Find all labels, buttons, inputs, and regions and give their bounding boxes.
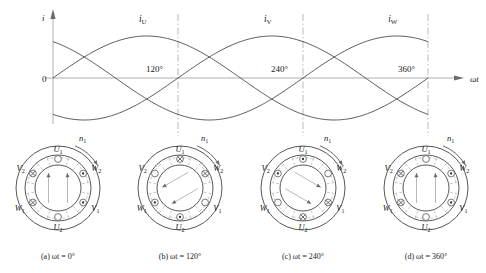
coil-U2: U2 <box>298 214 307 233</box>
slot-tick <box>159 163 164 169</box>
terminal-label-V2: V2 <box>385 163 393 174</box>
field-arrow-head <box>47 173 51 177</box>
slot-tick <box>318 206 323 212</box>
current-out-of-page-icon <box>450 201 452 203</box>
slot-tick <box>405 206 410 212</box>
terminal-label-W1: W1 <box>383 203 393 214</box>
terminal-label-W2: W2 <box>91 163 101 174</box>
terminal-label-U1: U1 <box>53 144 62 155</box>
phase-label-iW: iW <box>388 14 398 25</box>
current-out-of-page-icon <box>302 158 304 160</box>
current-waveform-chart: iωt0120°240°360°iUiViW <box>0 0 486 140</box>
terminal-label-U1: U1 <box>175 144 184 155</box>
current-out-of-page-icon <box>277 172 279 174</box>
waveform-svg: iωt0120°240°360°iUiViW <box>0 0 486 140</box>
slot-tick <box>204 192 212 193</box>
coil-marker-U1 <box>423 156 430 163</box>
coil-marker-V2 <box>151 170 158 177</box>
slot-tick <box>148 192 156 193</box>
coil-U2: U2 <box>421 214 430 233</box>
terminal-label-V2: V2 <box>262 163 270 174</box>
field-arrow-line <box>295 172 321 187</box>
terminal-label-W1: W1 <box>15 203 25 214</box>
motor-c: U1W2V1U2W1V2n1 <box>260 133 347 233</box>
coil-marker-V1 <box>202 199 209 206</box>
current-out-of-page-icon <box>82 201 84 203</box>
phase-label-iV: iV <box>264 14 272 25</box>
terminal-label-V2: V2 <box>17 163 25 174</box>
slot-tick <box>271 182 279 183</box>
field-arrow-head <box>434 173 438 177</box>
motor-d: U1W2V1U2W1V2n1 <box>383 133 470 233</box>
terminal-label-U2: U2 <box>421 222 430 233</box>
coil-marker-W1 <box>274 199 281 206</box>
slot-tick <box>82 182 90 183</box>
terminal-label-W1: W1 <box>260 203 270 214</box>
terminal-label-V1: V1 <box>213 203 221 214</box>
phase-label-iU: iU <box>139 14 147 25</box>
terminal-label-U1: U1 <box>298 144 307 155</box>
coil-marker-U2 <box>55 214 62 221</box>
rotor-circle <box>157 165 203 211</box>
three-phase-rotating-field-figure: iωt0120°240°360°iUiViW U1W2V1U2W1V2n1(a)… <box>0 0 486 273</box>
slot-tick <box>282 163 287 169</box>
rotor-circle <box>35 165 81 211</box>
slot-tick <box>37 163 42 169</box>
motor-b: U1W2V1U2W1V2n1 <box>137 133 224 233</box>
caption-motor-c: (c) ωt = 240° <box>282 252 324 261</box>
slot-tick <box>26 192 34 193</box>
coil-V2: V2 <box>139 163 159 177</box>
terminal-label-W1: W1 <box>137 203 147 214</box>
xtick-120: 120° <box>146 64 164 74</box>
slot-tick <box>73 163 78 169</box>
coil-U2: U2 <box>53 214 62 233</box>
terminal-label-W2: W2 <box>213 163 223 174</box>
current-out-of-page-icon <box>450 172 452 174</box>
caption-motor-b: (b) ωt = 120° <box>159 252 202 261</box>
terminal-label-W2: W2 <box>459 163 469 174</box>
slot-tick <box>327 192 335 193</box>
slot-tick <box>405 163 410 169</box>
coil-marker-W2 <box>325 170 332 177</box>
slot-tick <box>37 206 42 212</box>
terminal-label-W2: W2 <box>336 163 346 174</box>
xtick-360: 360° <box>398 64 416 74</box>
slot-tick <box>441 206 446 212</box>
slot-tick <box>327 182 335 183</box>
x-axis-label: ωt <box>470 74 479 84</box>
slot-tick <box>82 192 90 193</box>
terminal-label-V1: V1 <box>91 203 99 214</box>
coil-V2: V2 <box>385 163 405 177</box>
terminal-label-U1: U1 <box>421 144 430 155</box>
terminal-label-U2: U2 <box>175 222 184 233</box>
motor-a: U1W2V1U2W1V2n1 <box>15 133 102 233</box>
y-axis-label: i <box>42 13 45 23</box>
slot-tick <box>195 206 200 212</box>
field-arrow-line <box>285 189 311 204</box>
field-arrow-head <box>66 173 70 177</box>
current-out-of-page-icon <box>154 201 156 203</box>
slot-tick <box>394 192 402 193</box>
current-out-of-page-icon <box>179 216 181 218</box>
slot-tick <box>148 182 156 183</box>
xtick-240: 240° <box>271 64 289 74</box>
slot-tick <box>282 206 287 212</box>
motors-svg: U1W2V1U2W1V2n1(a) ωt = 0°U1W2V1U2W1V2n1(… <box>0 138 486 273</box>
terminal-label-V1: V1 <box>336 203 344 214</box>
terminal-label-U2: U2 <box>53 222 62 233</box>
rotor-circle <box>403 165 449 211</box>
x-axis-arrow <box>454 75 464 80</box>
slot-tick <box>195 163 200 169</box>
slot-tick <box>271 192 279 193</box>
slot-tick <box>450 192 458 193</box>
slot-tick <box>450 182 458 183</box>
field-arrow-line <box>162 172 188 187</box>
coil-V2: V2 <box>17 163 37 177</box>
rotor-circle <box>280 165 326 211</box>
field-arrow-head <box>415 173 419 177</box>
slot-tick <box>394 182 402 183</box>
field-arrow-line <box>172 189 198 204</box>
slot-tick <box>441 163 446 169</box>
coil-marker-U2 <box>423 214 430 221</box>
caption-motor-d: (d) ωt = 360° <box>405 252 448 261</box>
